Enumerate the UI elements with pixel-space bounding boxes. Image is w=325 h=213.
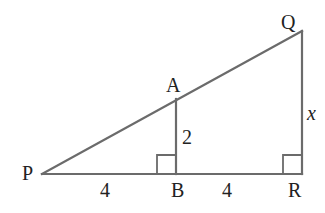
measure-BR: 4 <box>222 179 232 201</box>
measure-AB: 2 <box>182 126 192 148</box>
point-label-B: B <box>171 179 184 201</box>
right-angle-marker-R <box>283 155 302 174</box>
right-angle-marker-B <box>157 155 176 174</box>
point-label-R: R <box>288 179 302 201</box>
point-label-Q: Q <box>281 11 296 33</box>
point-label-A: A <box>166 74 181 96</box>
similar-triangles-diagram: P A Q B R 4 4 2 x <box>0 0 325 213</box>
segment-PQ <box>42 31 302 174</box>
point-label-P: P <box>22 162 33 184</box>
measure-PB: 4 <box>100 179 110 201</box>
measure-QR: x <box>306 102 316 124</box>
